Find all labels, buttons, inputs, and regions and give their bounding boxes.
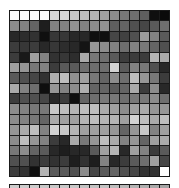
puzzle-tile[interactable] xyxy=(160,156,169,165)
puzzle-tile[interactable] xyxy=(70,21,79,30)
puzzle-tile[interactable] xyxy=(30,94,39,103)
puzzle-tile[interactable] xyxy=(20,167,29,176)
puzzle-tile[interactable] xyxy=(30,53,39,62)
puzzle-tile[interactable] xyxy=(70,11,79,20)
puzzle-tile[interactable] xyxy=(20,53,29,62)
puzzle-tile[interactable] xyxy=(60,73,69,82)
puzzle-tile[interactable] xyxy=(80,84,89,93)
puzzle-tile[interactable] xyxy=(10,63,19,72)
puzzle-tile[interactable] xyxy=(140,94,149,103)
puzzle-tile[interactable] xyxy=(140,146,149,155)
puzzle-tile[interactable] xyxy=(110,156,119,165)
puzzle-tile[interactable] xyxy=(150,73,159,82)
puzzle-tile[interactable] xyxy=(120,11,129,20)
puzzle-tile[interactable] xyxy=(150,136,159,145)
puzzle-tile[interactable] xyxy=(40,53,49,62)
puzzle-tile[interactable] xyxy=(160,21,169,30)
puzzle-tile[interactable] xyxy=(150,94,159,103)
puzzle-tile[interactable] xyxy=(60,136,69,145)
puzzle-tile[interactable] xyxy=(80,146,89,155)
puzzle-tile[interactable] xyxy=(40,115,49,124)
puzzle-tile[interactable] xyxy=(130,94,139,103)
puzzle-tile[interactable] xyxy=(60,104,69,113)
puzzle-tile[interactable] xyxy=(130,21,139,30)
puzzle-tile[interactable] xyxy=(40,156,49,165)
puzzle-tile[interactable] xyxy=(150,53,159,62)
puzzle-tile[interactable] xyxy=(30,167,39,176)
puzzle-tile[interactable] xyxy=(100,136,109,145)
puzzle-tile[interactable] xyxy=(110,73,119,82)
puzzle-tile[interactable] xyxy=(160,185,169,188)
puzzle-tile[interactable] xyxy=(50,156,59,165)
puzzle-tile[interactable] xyxy=(150,146,159,155)
puzzle-tile[interactable] xyxy=(40,42,49,51)
puzzle-tile[interactable] xyxy=(90,53,99,62)
puzzle-tile[interactable] xyxy=(30,104,39,113)
puzzle-tile[interactable] xyxy=(100,125,109,134)
puzzle-tile[interactable] xyxy=(50,84,59,93)
puzzle-tile[interactable] xyxy=(150,156,159,165)
puzzle-tile[interactable] xyxy=(60,115,69,124)
puzzle-tile[interactable] xyxy=(70,53,79,62)
puzzle-tile[interactable] xyxy=(10,94,19,103)
puzzle-tile[interactable] xyxy=(160,53,169,62)
puzzle-tile[interactable] xyxy=(130,63,139,72)
puzzle-tile[interactable] xyxy=(20,185,29,188)
puzzle-tile[interactable] xyxy=(130,53,139,62)
puzzle-tile[interactable] xyxy=(150,21,159,30)
puzzle-tile[interactable] xyxy=(20,94,29,103)
puzzle-tile[interactable] xyxy=(40,32,49,41)
puzzle-tile[interactable] xyxy=(30,146,39,155)
puzzle-tile[interactable] xyxy=(150,167,159,176)
puzzle-tile[interactable] xyxy=(140,84,149,93)
puzzle-tile[interactable] xyxy=(20,125,29,134)
puzzle-tile[interactable] xyxy=(80,94,89,103)
puzzle-tile[interactable] xyxy=(20,42,29,51)
puzzle-tile[interactable] xyxy=(100,11,109,20)
puzzle-tile[interactable] xyxy=(80,167,89,176)
puzzle-tile[interactable] xyxy=(150,125,159,134)
puzzle-tile[interactable] xyxy=(20,115,29,124)
puzzle-tile[interactable] xyxy=(80,42,89,51)
puzzle-tile[interactable] xyxy=(90,115,99,124)
puzzle-tile[interactable] xyxy=(110,21,119,30)
puzzle-tile[interactable] xyxy=(120,94,129,103)
puzzle-tile[interactable] xyxy=(40,84,49,93)
puzzle-tile[interactable] xyxy=(60,185,69,188)
puzzle-tile[interactable] xyxy=(50,104,59,113)
puzzle-tile[interactable] xyxy=(100,156,109,165)
puzzle-tile[interactable] xyxy=(110,115,119,124)
puzzle-tile[interactable] xyxy=(140,11,149,20)
puzzle-tile[interactable] xyxy=(70,125,79,134)
puzzle-tile[interactable] xyxy=(100,53,109,62)
puzzle-tile[interactable] xyxy=(70,32,79,41)
puzzle-tile[interactable] xyxy=(110,32,119,41)
puzzle-tile[interactable] xyxy=(160,104,169,113)
puzzle-tile[interactable] xyxy=(70,115,79,124)
puzzle-tile[interactable] xyxy=(20,73,29,82)
puzzle-tile[interactable] xyxy=(10,115,19,124)
puzzle-tile[interactable] xyxy=(110,42,119,51)
puzzle-tile[interactable] xyxy=(160,63,169,72)
puzzle-tile[interactable] xyxy=(30,156,39,165)
puzzle-tile[interactable] xyxy=(110,136,119,145)
puzzle-tile[interactable] xyxy=(40,21,49,30)
puzzle-tile[interactable] xyxy=(50,167,59,176)
puzzle-tile[interactable] xyxy=(160,115,169,124)
puzzle-tile[interactable] xyxy=(100,104,109,113)
puzzle-tile[interactable] xyxy=(50,73,59,82)
puzzle-tile[interactable] xyxy=(20,156,29,165)
puzzle-tile[interactable] xyxy=(160,84,169,93)
puzzle-tile[interactable] xyxy=(80,63,89,72)
puzzle-tile[interactable] xyxy=(120,42,129,51)
puzzle-tile[interactable] xyxy=(70,146,79,155)
puzzle-tile[interactable] xyxy=(140,21,149,30)
puzzle-tile[interactable] xyxy=(160,11,169,20)
puzzle-tile[interactable] xyxy=(130,167,139,176)
puzzle-tile[interactable] xyxy=(60,21,69,30)
puzzle-tile[interactable] xyxy=(90,146,99,155)
puzzle-tile[interactable] xyxy=(100,73,109,82)
puzzle-tile[interactable] xyxy=(70,185,79,188)
puzzle-tile[interactable] xyxy=(110,185,119,188)
puzzle-tile[interactable] xyxy=(50,42,59,51)
